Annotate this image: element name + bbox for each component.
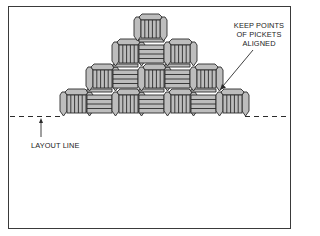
keep-points-label-line-1: KEEP POINTS — [224, 21, 294, 30]
layout-line-arrow-icon — [39, 118, 43, 137]
picket-row-4 — [60, 89, 249, 116]
keep-points-label: KEEP POINTS OF PICKETS ALIGNED — [224, 21, 294, 48]
keep-points-arrow-icon — [220, 50, 253, 90]
keep-points-label-line-2: OF PICKETS — [224, 30, 294, 39]
keep-points-label-line-3: ALIGNED — [224, 39, 294, 48]
layout-line-label: LAYOUT LINE — [31, 141, 79, 150]
picket-row-1 — [134, 14, 167, 41]
picket-row-2 — [112, 39, 197, 66]
picket-row-3 — [86, 64, 223, 91]
